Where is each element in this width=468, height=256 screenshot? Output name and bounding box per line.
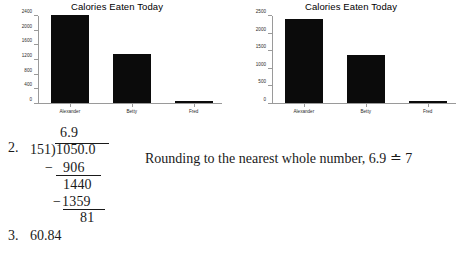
x-tick — [70, 104, 71, 107]
bar-fred — [175, 101, 213, 103]
x-tick — [132, 104, 133, 107]
y-axis — [272, 16, 273, 104]
y-tick-label: 2000 — [256, 26, 266, 31]
dividend-value: 1050.0 — [56, 143, 96, 157]
subtrahend-2: 1359 — [62, 195, 91, 209]
y-tick-label: 2000 — [22, 23, 32, 28]
y-tick — [268, 33, 272, 34]
dividend-row: 2. 151) 1050.0 — [8, 141, 30, 159]
bar-fred — [409, 101, 447, 103]
plot-area-left: 0 400 800 1200 1600 2000 2400 Alexander … — [38, 16, 220, 104]
chart-title: Calories Eaten Today — [234, 1, 468, 12]
quotient-value: 6.9 — [60, 126, 78, 140]
y-tick-label: 0 — [29, 97, 32, 102]
y-tick-label: 2500 — [256, 9, 266, 14]
y-tick-label: 1200 — [22, 53, 32, 58]
rounding-note: Rounding to the nearest whole number, 6.… — [145, 150, 412, 167]
quotient-row: 6.9 — [8, 126, 30, 141]
chart-title: Calories Eaten Today — [0, 1, 234, 12]
y-tick-label: 800 — [24, 67, 32, 72]
divisor-and-bracket: 151) — [30, 143, 56, 157]
y-tick — [268, 50, 272, 51]
y-tick-label: 500 — [258, 79, 266, 84]
bar-alexander — [51, 15, 89, 103]
y-tick — [268, 15, 272, 16]
x-tick — [304, 104, 305, 107]
y-tick-label: 1000 — [256, 61, 266, 66]
divisor-value: 151 — [30, 142, 51, 157]
y-tick — [34, 103, 38, 104]
remainder-2: 81 — [80, 211, 94, 225]
x-tick-label: Betty — [126, 109, 136, 114]
remainder-row-1: 1440 — [8, 176, 30, 193]
x-tick — [428, 104, 429, 107]
y-tick — [34, 88, 38, 89]
x-tick-label: Alexander — [60, 109, 81, 114]
division-bracket: ) — [51, 142, 56, 157]
y-tick — [34, 30, 38, 31]
bar-betty — [347, 55, 385, 103]
x-tick-label: Betty — [360, 109, 370, 114]
bar-chart-right: Calories Eaten Today 0 500 1000 1500 200… — [234, 0, 468, 126]
x-tick-label: Alexander — [294, 109, 315, 114]
minus-sign-1: − — [45, 161, 53, 175]
bar-chart-left: Calories Eaten Today 0 400 800 1200 1600… — [0, 0, 234, 126]
subtrahend-1: 906 — [63, 161, 85, 175]
x-tick-label: Fred — [423, 109, 432, 114]
y-tick-label: 1500 — [256, 44, 266, 49]
problem-number: 3. — [8, 228, 30, 244]
y-tick — [34, 74, 38, 75]
y-tick-label: 0 — [263, 97, 266, 102]
subtraction-row-1: − 906 — [8, 159, 30, 176]
bar-alexander — [285, 19, 323, 103]
subtraction-rule-1 — [56, 175, 101, 176]
y-tick — [34, 15, 38, 16]
x-tick — [194, 104, 195, 107]
y-tick — [34, 44, 38, 45]
long-division-problem: 6.9 2. 151) 1050.0 − 906 1440 − 1359 81 — [8, 126, 30, 226]
y-tick-label: 400 — [24, 82, 32, 87]
y-tick — [268, 68, 272, 69]
remainder-1: 1440 — [63, 178, 92, 192]
y-tick — [34, 59, 38, 60]
x-tick-label: Fred — [189, 109, 198, 114]
bar-betty — [113, 54, 151, 103]
item-three-value: 60.84 — [30, 228, 62, 243]
y-tick — [268, 85, 272, 86]
minus-sign-2: − — [53, 195, 61, 209]
remainder-row-2: 81 — [8, 210, 30, 226]
problem-number: 2. — [8, 141, 30, 155]
item-three: 3.60.84 — [8, 228, 62, 244]
division-grid: 6.9 2. 151) 1050.0 − 906 1440 − 1359 81 — [8, 126, 30, 226]
plot-area-right: 0 500 1000 1500 2000 2500 Alexander Bett… — [272, 16, 454, 104]
y-tick — [268, 103, 272, 104]
y-axis — [38, 16, 39, 104]
y-tick-label: 2400 — [22, 9, 32, 14]
x-tick — [366, 104, 367, 107]
y-tick-label: 1600 — [22, 38, 32, 43]
subtraction-row-2: − 1359 — [8, 193, 30, 210]
